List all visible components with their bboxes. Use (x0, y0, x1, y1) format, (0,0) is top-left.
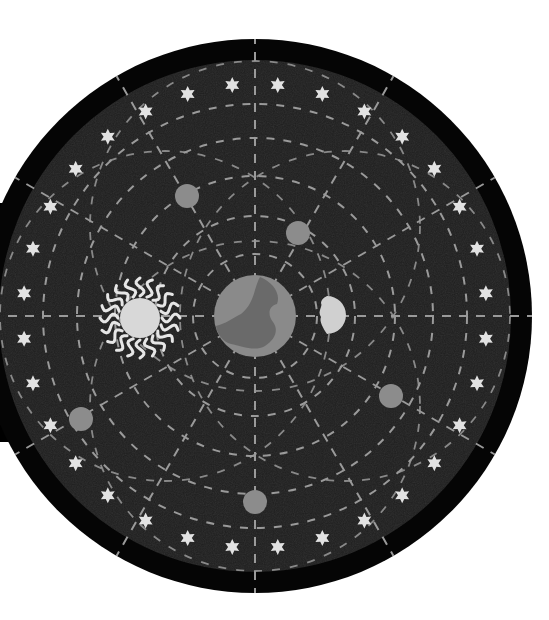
sun-core (120, 298, 160, 338)
earth-icon (214, 275, 296, 357)
planet-icon (175, 184, 199, 208)
planet-icon (69, 407, 93, 431)
planet-icon (286, 221, 310, 245)
diagram-caption: Geocentric model of the universe (0, 600, 549, 620)
geocentric-diagram (0, 0, 549, 620)
planet-icon (379, 384, 403, 408)
planet-icon (243, 490, 267, 514)
